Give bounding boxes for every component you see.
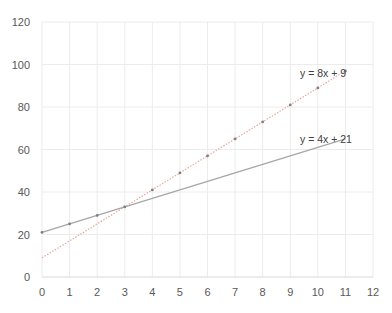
data-point xyxy=(123,205,126,208)
x-tick-label: 1 xyxy=(67,286,73,298)
trendlines xyxy=(42,71,345,258)
x-tick-label: 4 xyxy=(149,286,155,298)
scatter-chart: 020406080100120 0123456789101112 y = 8x … xyxy=(0,0,392,313)
data-point xyxy=(68,222,71,225)
x-tick-label: 10 xyxy=(312,286,324,298)
y-axis-ticks: 020406080100120 xyxy=(12,16,30,283)
x-tick-label: 2 xyxy=(94,286,100,298)
trendline-equation: y = 8x + 9 xyxy=(300,67,346,79)
y-tick-label: 40 xyxy=(18,186,30,198)
trendline xyxy=(42,139,345,233)
y-tick-label: 60 xyxy=(18,144,30,156)
data-point xyxy=(151,188,154,191)
x-axis-ticks: 0123456789101112 xyxy=(39,286,379,298)
x-tick-label: 6 xyxy=(204,286,210,298)
x-tick-label: 5 xyxy=(177,286,183,298)
x-tick-label: 9 xyxy=(287,286,293,298)
x-tick-label: 0 xyxy=(39,286,45,298)
y-tick-label: 0 xyxy=(24,271,30,283)
trendline-equation: y = 4x + 21 xyxy=(300,133,352,145)
x-tick-label: 8 xyxy=(260,286,266,298)
data-point xyxy=(179,171,182,174)
trendline-labels: y = 8x + 9y = 4x + 21 xyxy=(300,67,352,145)
x-tick-label: 3 xyxy=(122,286,128,298)
x-tick-label: 7 xyxy=(232,286,238,298)
data-point xyxy=(261,120,264,123)
data-point xyxy=(206,154,209,157)
y-tick-label: 100 xyxy=(12,59,30,71)
data-point xyxy=(96,214,99,217)
y-tick-label: 20 xyxy=(18,229,30,241)
x-tick-label: 12 xyxy=(367,286,379,298)
y-tick-label: 120 xyxy=(12,16,30,28)
data-points xyxy=(41,69,347,233)
data-point xyxy=(316,86,319,89)
x-tick-label: 11 xyxy=(340,286,351,298)
trendline xyxy=(42,71,345,258)
data-point xyxy=(234,137,237,140)
data-point xyxy=(289,103,292,106)
y-tick-label: 80 xyxy=(18,101,30,113)
data-point xyxy=(41,231,44,234)
grid-lines xyxy=(42,22,373,277)
